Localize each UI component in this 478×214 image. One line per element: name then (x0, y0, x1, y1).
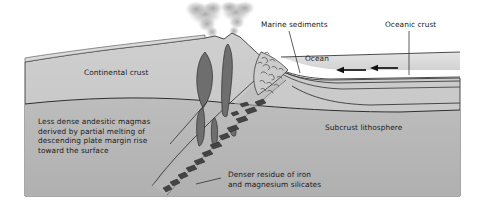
smoke-plume-left (185, 1, 223, 38)
leader-marine-sediments (289, 31, 300, 73)
subduction-zone-diagram: Continental crust Marine sediments Ocean… (0, 0, 478, 214)
diagram-canvas (0, 0, 478, 214)
ocean-group (266, 52, 460, 79)
smoke-plume-right (220, 1, 255, 36)
magma-finger-lower (211, 118, 217, 147)
smoke-plume-group (185, 1, 255, 38)
